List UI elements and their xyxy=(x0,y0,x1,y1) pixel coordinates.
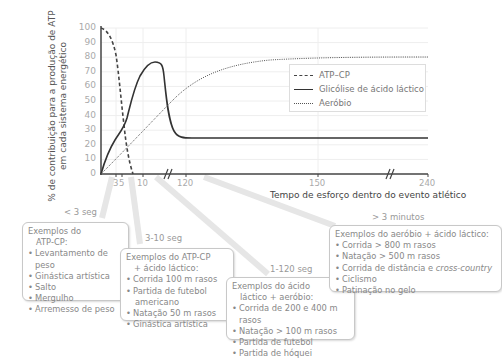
list-item: Arremesso de peso xyxy=(28,304,124,315)
list-item: Corrida > 800 m rasos xyxy=(335,240,497,251)
callout-box-aerobic-lactic: Exemplos do aeróbio + ácido láctico: Cor… xyxy=(329,225,502,292)
y-tick-label: 100 xyxy=(76,22,96,32)
x-tick-label: 240 xyxy=(419,178,435,188)
list-item: Corrida de 200 e 400 m rasos xyxy=(232,303,350,325)
callout-time-label: > 3 minutos xyxy=(372,212,424,222)
x-tick-label: 5 xyxy=(119,178,124,188)
chart-legend: ATP–CP Glicólise de ácido láctico Aeróbi… xyxy=(289,64,426,112)
y-tick-label: 30 xyxy=(76,124,96,134)
y-axis-title-line1: % de contribuição para a produção de ATP xyxy=(47,0,58,231)
callout-time-label: 3-10 seg xyxy=(145,233,182,243)
list-item: Natação > 500 m rasos xyxy=(335,251,497,262)
list-item: Partida de hóquei xyxy=(232,348,350,358)
y-tick-label: 90 xyxy=(76,37,96,47)
legend-label: Glicólise de ácido láctico xyxy=(319,84,424,94)
legend-item-aerobic: Aeróbio xyxy=(294,97,351,109)
list-item: Ginástica artística xyxy=(28,271,124,282)
list-item: Levantamento de peso xyxy=(28,248,124,270)
y-tick-label: 20 xyxy=(76,139,96,149)
y-axis-title-line2: em cada sistema energético xyxy=(58,0,69,231)
solid-line-icon xyxy=(294,89,313,90)
list-item: Ginástica artística xyxy=(126,319,229,330)
callout-time-label: < 3 seg xyxy=(64,207,97,217)
x-axis-title: Tempo de esforço dentro do evento atléti… xyxy=(270,190,466,200)
callout-time-label: 1-120 seg xyxy=(270,264,312,274)
y-tick-label: 70 xyxy=(76,66,96,76)
list-item: Natação 50 m rasos xyxy=(126,308,229,319)
callout-heading: láctico + aeróbio: xyxy=(232,292,350,303)
dashed-line-icon xyxy=(294,75,313,76)
dotted-line-icon xyxy=(294,103,313,104)
list-item-continuation: americano xyxy=(126,297,229,308)
x-tick-label: 150 xyxy=(309,178,325,188)
y-tick-label: 10 xyxy=(76,153,96,163)
callout-heading: + ácido láctico: xyxy=(126,263,229,274)
legend-item-glycolysis: Glicólise de ácido láctico xyxy=(294,83,424,95)
x-tick-label: 120 xyxy=(177,178,193,188)
list-item: Partida de futebol xyxy=(126,286,229,297)
y-tick-label: 50 xyxy=(76,95,96,105)
callout-box-atpcp: Exemplos do ATP-CP: Levantamento de peso… xyxy=(22,222,129,301)
y-tick-label: 40 xyxy=(76,110,96,120)
list-item: Corrida 100 m rasos xyxy=(126,274,229,285)
y-tick-label: 80 xyxy=(76,51,96,61)
list-item: Ciclismo xyxy=(335,274,497,285)
x-tick-label: 3 xyxy=(113,178,118,188)
list-item: Mergulho xyxy=(28,293,124,304)
callout-heading: ATP-CP: xyxy=(28,237,124,248)
callout-heading: Exemplos do xyxy=(28,226,124,237)
list-item: Natação > 100 m rasos xyxy=(232,326,350,337)
list-item-italic: cross-country xyxy=(436,263,492,273)
legend-label: ATP–CP xyxy=(319,70,350,80)
callout-heading: Exemplos do aeróbio + ácido láctico: xyxy=(335,229,497,240)
legend-label: Aeróbio xyxy=(319,98,351,108)
callout-box-atpcp-lactic: Exemplos do ATP-CP + ácido láctico: Corr… xyxy=(120,248,234,321)
list-item: Salto xyxy=(28,282,124,293)
callout-heading: Exemplos do ATP-CP xyxy=(126,252,229,263)
y-tick-label: 0 xyxy=(76,168,96,178)
x-tick-label: 10 xyxy=(137,178,148,188)
list-item: Corrida de distância e cross-country xyxy=(335,263,497,274)
list-item: Partida de futebol xyxy=(232,337,350,348)
list-item: Patinação no gelo xyxy=(335,285,497,296)
y-tick-label: 60 xyxy=(76,80,96,90)
legend-item-atpcp: ATP–CP xyxy=(294,69,350,81)
list-item-text: Corrida de distância e xyxy=(342,263,436,273)
